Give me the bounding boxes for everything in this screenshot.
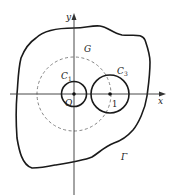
y-axis-label: y: [65, 12, 72, 22]
tick-one-label: 1: [112, 99, 117, 109]
contour-diagram: y x O G 1 Γ C1 C3: [0, 0, 170, 195]
c3-label: C3: [117, 66, 128, 77]
y-axis-arrow-icon: [72, 13, 77, 20]
origin-label: O: [65, 98, 73, 108]
point-one: [108, 92, 112, 96]
region-label-g: G: [84, 44, 91, 54]
origin-point: [72, 92, 76, 96]
x-axis-label: x: [158, 96, 163, 106]
c1-label: C1: [61, 71, 72, 82]
outer-boundary-label: Γ: [120, 152, 128, 162]
